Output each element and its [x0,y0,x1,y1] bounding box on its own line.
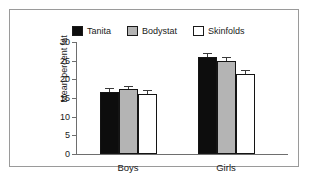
error-cap-girls-tanita [203,53,212,54]
bar-girls-skinfolds [236,74,255,154]
legend-item-skinfolds: Skinfolds [193,26,245,36]
chart-legend: Tanita Bodystat Skinfolds [72,23,302,39]
y-tick-label-10: 10 [54,113,70,122]
legend-item-tanita: Tanita [72,26,111,36]
error-cap-boys-bodystat [124,86,133,87]
error-cap-girls-skinfolds [241,70,250,71]
legend-swatch-skinfolds [193,26,204,36]
bar-girls-bodystat [217,61,236,154]
figure: Tanita Bodystat Skinfolds Mean percent f… [0,0,310,176]
legend-label-tanita: Tanita [87,26,111,36]
y-tick-5 [72,135,76,136]
y-tick-0 [72,154,76,155]
legend-item-bodystat: Bodystat [127,26,177,36]
legend-swatch-tanita [72,26,83,36]
error-cap-boys-skinfolds [143,90,152,91]
y-tick-30 [72,42,76,43]
bar-boys-bodystat [119,89,138,154]
figure-frame: Tanita Bodystat Skinfolds Mean percent f… [9,9,299,167]
y-axis-line [76,42,77,154]
x-axis-label-girls: Girls [196,162,256,173]
error-cap-girls-bodystat [222,57,231,58]
plot-area: Mean percent fat 051015202530 BoysGirls [76,42,288,154]
x-axis-label-boys: Boys [98,162,158,173]
bar-boys-tanita [100,92,119,154]
y-tick-20 [72,79,76,80]
y-tick-label-5: 5 [54,131,70,140]
y-tick-15 [72,98,76,99]
legend-label-skinfolds: Skinfolds [208,26,245,36]
error-cap-boys-tanita [105,88,114,89]
bar-boys-skinfolds [138,94,157,154]
x-axis-line [76,154,288,155]
legend-swatch-bodystat [127,26,138,36]
y-tick-10 [72,117,76,118]
bar-girls-tanita [198,57,217,154]
y-tick-label-30: 30 [54,38,70,47]
y-tick-label-0: 0 [54,150,70,159]
y-tick-label-15: 15 [54,94,70,103]
y-tick-label-20: 20 [54,75,70,84]
y-tick-label-25: 25 [54,57,70,66]
y-tick-25 [72,61,76,62]
legend-label-bodystat: Bodystat [142,26,177,36]
